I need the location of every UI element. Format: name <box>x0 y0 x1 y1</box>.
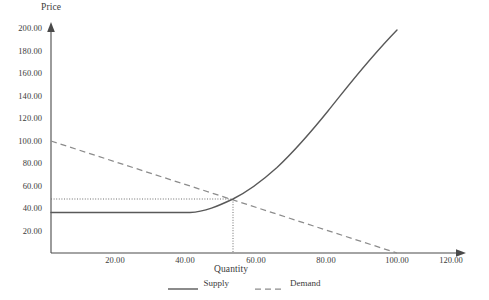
supply-curve <box>51 30 397 213</box>
y-tick-label: 180.00 <box>0 46 42 56</box>
legend-item-demand: Demand <box>255 278 321 288</box>
x-tick-label: 20.00 <box>91 255 139 265</box>
y-tick-label: 140.00 <box>0 91 42 101</box>
demand-curve <box>51 141 397 253</box>
y-axis-title: Price <box>41 2 61 12</box>
x-axis-title: Quantity <box>214 264 248 274</box>
y-tick-label: 200.00 <box>0 23 42 33</box>
x-tick-label: 100.00 <box>373 255 421 265</box>
y-tick-label: 60.00 <box>0 181 42 191</box>
y-tick-label: 20.00 <box>0 226 42 236</box>
y-tick-label: 80.00 <box>0 158 42 168</box>
x-tick-label: 60.00 <box>232 255 280 265</box>
x-tick-label: 120.00 <box>427 255 475 265</box>
legend-label-supply: Supply <box>203 278 229 288</box>
legend-swatch-demand-icon <box>255 279 285 287</box>
legend-swatch-supply-icon <box>168 279 198 287</box>
y-tick-label: 120.00 <box>0 113 42 123</box>
legend-item-supply: Supply <box>168 278 229 288</box>
y-axis-arrow-icon <box>47 22 55 32</box>
y-tick-label: 160.00 <box>0 68 42 78</box>
legend-label-demand: Demand <box>290 278 321 288</box>
supply-demand-chart: Price Quantity 200.00 180.00 160.00 140.… <box>0 0 489 300</box>
x-tick-label: 40.00 <box>161 255 209 265</box>
y-tick-label: 100.00 <box>0 136 42 146</box>
chart-legend: Supply Demand <box>0 278 489 288</box>
x-tick-label: 80.00 <box>302 255 350 265</box>
y-tick-label: 40.00 <box>0 203 42 213</box>
